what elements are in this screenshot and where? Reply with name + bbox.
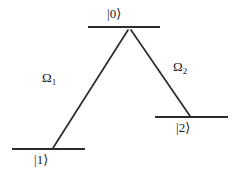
- omega-2-subscript: 2: [183, 66, 188, 76]
- state-label-1: |1⟩: [34, 153, 48, 166]
- state-label-0: |0⟩: [107, 7, 121, 20]
- omega-2-symbol: Ω: [173, 59, 183, 74]
- coupling-label-omega-1: Ω1: [42, 71, 56, 87]
- transition-line-omega-1: [53, 30, 128, 148]
- omega-1-symbol: Ω: [42, 70, 52, 85]
- state-label-2: |2⟩: [176, 121, 190, 134]
- energy-level-diagram: |0⟩ |1⟩ |2⟩ Ω1 Ω2: [0, 0, 233, 176]
- diagram-canvas: [0, 0, 233, 176]
- coupling-label-omega-2: Ω2: [173, 60, 187, 76]
- omega-1-subscript: 1: [52, 77, 57, 87]
